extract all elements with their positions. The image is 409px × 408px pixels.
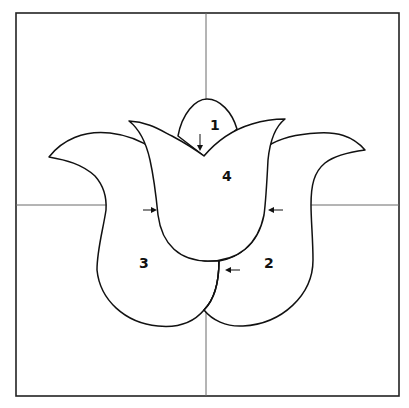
tulip-diagram: 1 2 3 4 <box>0 0 409 408</box>
diagram-canvas: 1 2 3 4 <box>0 0 409 408</box>
label-petal-2: 2 <box>264 255 274 271</box>
label-petal-3: 3 <box>139 255 149 271</box>
label-petal-4: 4 <box>222 168 232 184</box>
label-petal-1: 1 <box>210 117 220 133</box>
